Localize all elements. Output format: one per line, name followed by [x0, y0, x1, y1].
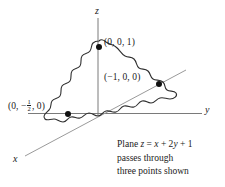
caption-plane-word: Plane: [117, 139, 140, 149]
point-marker-0-neghalf-0: [65, 111, 71, 117]
caption: Plane z = x + 2y + 1 passes through thre…: [117, 138, 192, 179]
caption-line-3: three points shown: [117, 165, 192, 179]
caption-line-2: passes through: [117, 152, 192, 166]
y-axis-label: y: [205, 105, 209, 115]
caption-plus-two: + 2: [159, 139, 174, 149]
point-label-suffix: , 0): [32, 101, 45, 111]
point-label-0-neghalf-0: (0, −12, 0): [8, 99, 45, 114]
point-marker-0-0-1: [96, 44, 102, 50]
x-axis-label: x: [13, 154, 17, 164]
point-label-0-0-1: (0, 0, 1): [104, 38, 135, 48]
fraction-denominator: 2: [27, 106, 31, 113]
caption-line-1: Plane z = x + 2y + 1: [117, 138, 192, 152]
point-marker-neg1-0-0: [156, 81, 162, 87]
caption-plus-one: + 1: [178, 139, 193, 149]
caption-equals: =: [144, 139, 154, 149]
point-label-prefix: (0, −: [8, 101, 27, 111]
one-half-fraction: 12: [27, 99, 31, 114]
plane-figure: z y x (0, 0, 1) (−1, 0, 0) (0, −12, 0) P…: [0, 0, 225, 187]
point-label-neg1-0-0: (−1, 0, 0): [104, 73, 140, 83]
z-axis-label: z: [95, 6, 99, 16]
